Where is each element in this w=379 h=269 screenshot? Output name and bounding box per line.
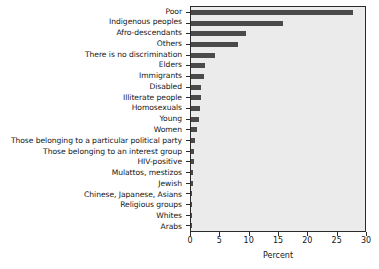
x-tick-label: 25 — [332, 237, 342, 245]
category-label: Others — [0, 38, 186, 49]
category-label: Arabs — [0, 221, 186, 232]
bar-row — [191, 220, 365, 231]
bar-row — [191, 39, 365, 50]
category-axis-labels: PoorIndigenous peoplesAfro-descendantsOt… — [0, 6, 186, 232]
bar — [191, 213, 192, 218]
bar-row — [191, 103, 365, 114]
category-label: Homosexuals — [0, 103, 186, 114]
bar — [191, 149, 194, 154]
bar — [191, 63, 205, 68]
bar — [191, 21, 283, 26]
bar — [191, 74, 204, 79]
category-label: Whites — [0, 211, 186, 222]
category-label: Young — [0, 114, 186, 125]
category-label: Jewish — [0, 178, 186, 189]
bar — [191, 31, 246, 36]
bars-layer — [191, 7, 365, 231]
bar-row — [191, 114, 365, 125]
bar — [191, 53, 215, 58]
bar-row — [191, 7, 365, 18]
bar-row — [191, 71, 365, 82]
bar — [191, 181, 193, 186]
bar — [191, 170, 193, 175]
bar — [191, 117, 199, 122]
bar — [191, 85, 201, 90]
bar — [191, 223, 192, 228]
bar-row — [191, 50, 365, 61]
category-label: Women — [0, 124, 186, 135]
bar — [191, 127, 197, 132]
bar-row — [191, 199, 365, 210]
category-label: There is no discrimination — [0, 49, 186, 60]
bar-chart: PoorIndigenous peoplesAfro-descendantsOt… — [0, 0, 379, 269]
x-tick-label: 15 — [273, 237, 283, 245]
bar — [191, 202, 192, 207]
category-label: Mulattos, mestizos — [0, 167, 186, 178]
category-label: Those belonging to an interest group — [0, 146, 186, 157]
x-tick-label: 5 — [217, 237, 222, 245]
bar — [191, 95, 201, 100]
category-label: Elders — [0, 60, 186, 71]
bar-row — [191, 28, 365, 39]
bar-row — [191, 146, 365, 157]
category-label: HIV-positive — [0, 157, 186, 168]
category-label: Immigrants — [0, 71, 186, 82]
category-label: Religious groups — [0, 200, 186, 211]
bar-row — [191, 188, 365, 199]
bar — [191, 42, 238, 47]
bar — [191, 191, 192, 196]
bar — [191, 159, 194, 164]
bar-row — [191, 124, 365, 135]
bar-row — [191, 18, 365, 29]
bar — [191, 106, 200, 111]
bar-row — [191, 178, 365, 189]
x-tick-label: 10 — [244, 237, 254, 245]
category-label: Disabled — [0, 81, 186, 92]
x-tick-label: 20 — [302, 237, 312, 245]
bar — [191, 10, 353, 15]
bar — [191, 138, 195, 143]
bar-row — [191, 92, 365, 103]
bar-row — [191, 60, 365, 71]
bar-row — [191, 156, 365, 167]
category-label: Poor — [0, 6, 186, 17]
bar-row — [191, 210, 365, 221]
x-tick-label: 0 — [187, 237, 192, 245]
x-axis-title: Percent — [190, 252, 366, 260]
category-label: Indigenous peoples — [0, 17, 186, 28]
category-label: Afro-descendants — [0, 28, 186, 39]
bar-row — [191, 167, 365, 178]
bar-row — [191, 135, 365, 146]
bar-row — [191, 82, 365, 93]
category-label: Those belonging to a particular politica… — [0, 135, 186, 146]
x-tick-label: 30 — [361, 237, 371, 245]
category-label: Chinese, Japanese, Asians — [0, 189, 186, 200]
category-label: Illiterate people — [0, 92, 186, 103]
